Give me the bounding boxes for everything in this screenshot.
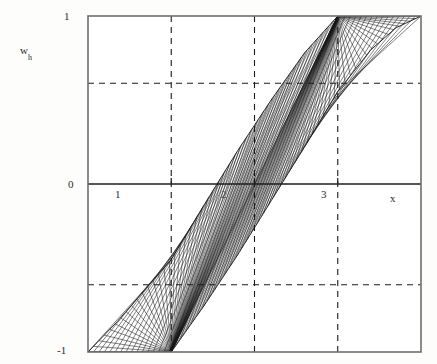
y-tick-label-top: 1 (64, 10, 70, 22)
y-axis-label-base: w (20, 44, 28, 56)
chart-figure: 1 0 -1 1 2 3 wh x (0, 0, 437, 364)
y-tick-label-zero: 0 (68, 178, 74, 190)
y-axis-label: wh (20, 44, 32, 59)
x-tick-label-2: 2 (221, 188, 227, 200)
x-tick-label-3: 3 (321, 188, 327, 200)
x-axis-label: x (390, 192, 396, 204)
x-tick-label-1: 1 (115, 188, 121, 200)
plot-canvas (0, 0, 437, 364)
y-tick-label-bottom: -1 (57, 344, 66, 356)
y-axis-label-subscript: h (28, 53, 32, 62)
